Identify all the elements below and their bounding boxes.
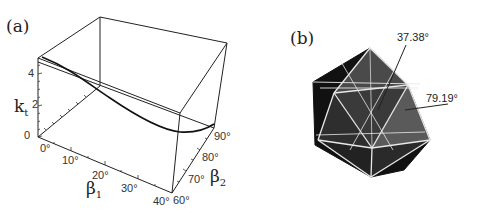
y-axis-label: β2 [210, 168, 226, 188]
z-axis-ticks [38, 65, 42, 137]
x-tick-10: 10° [62, 155, 79, 166]
x-tick-30: 30° [121, 183, 138, 194]
y-tick-60: 60° [173, 195, 190, 206]
z-axis-label-main: k [14, 96, 24, 116]
x-tick-0: 0° [40, 143, 51, 154]
icosahedron [313, 45, 448, 177]
x-axis-label-sub: 1 [96, 189, 102, 200]
z-tick-2: 2 [32, 99, 38, 110]
x-axis-label-main: β [86, 178, 96, 198]
panel-a-label: (a) [6, 18, 29, 35]
z-tick-4: 4 [28, 68, 34, 79]
x-tick-40: 40° [153, 196, 170, 207]
y-axis-label-main: β [210, 166, 220, 186]
annotation-angle-79: 79.19° [426, 93, 458, 104]
y-tick-80: 80° [202, 152, 219, 163]
panel-b-label: (b) [290, 30, 314, 47]
z-axis-label-sub: t [24, 107, 28, 118]
z-axis-label: kt [14, 98, 28, 118]
kt-curve [42, 57, 214, 132]
z-tick-0: 0 [24, 130, 30, 141]
annotation-angle-37: 37.38° [397, 32, 429, 43]
y-tick-70: 70° [188, 174, 205, 185]
back-edge-ticks [44, 95, 86, 130]
y-tick-90: 90° [214, 131, 231, 142]
x-axis-label: β1 [86, 180, 102, 200]
plot-box [38, 17, 227, 193]
y-axis-label-sub: 2 [220, 177, 226, 188]
